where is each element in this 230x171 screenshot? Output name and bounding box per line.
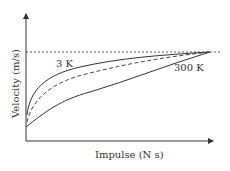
plot-area: [0, 0, 230, 171]
label-3k: 3 K: [56, 58, 73, 69]
diagram: 3 K 300 K Impulse (N s) Velocity (m/s): [0, 0, 230, 171]
y-axis-label: Velocity (m/s): [10, 49, 21, 119]
x-axis-label: Impulse (N s): [95, 149, 164, 160]
label-300k: 300 K: [174, 62, 204, 73]
